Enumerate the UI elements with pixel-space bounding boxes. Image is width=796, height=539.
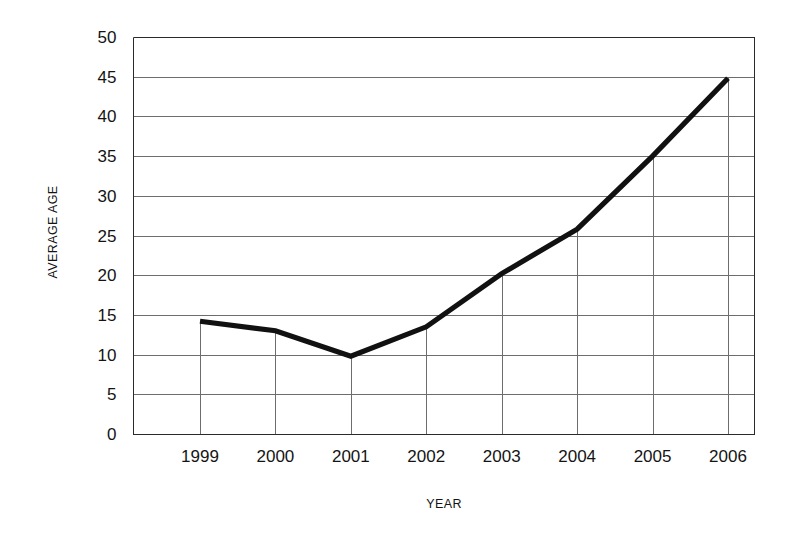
y-tick-label-0: 0 bbox=[107, 425, 116, 444]
x-tick-label-2001: 2001 bbox=[332, 447, 370, 466]
y-tick-label-30: 30 bbox=[98, 187, 117, 206]
x-tick-label-1999: 1999 bbox=[181, 447, 219, 466]
chart-container: 05101520253035404550 1999200020012002200… bbox=[0, 0, 796, 539]
y-tick-label-15: 15 bbox=[98, 306, 117, 325]
x-tick-label-2004: 2004 bbox=[558, 447, 596, 466]
x-axis-title: YEAR bbox=[426, 497, 462, 511]
y-tick-label-40: 40 bbox=[98, 107, 117, 126]
y-tick-label-10: 10 bbox=[98, 346, 117, 365]
y-tick-label-35: 35 bbox=[98, 147, 117, 166]
plot-background bbox=[0, 0, 796, 539]
y-tick-label-25: 25 bbox=[98, 227, 117, 246]
x-tick-label-2000: 2000 bbox=[257, 447, 295, 466]
y-tick-label-45: 45 bbox=[98, 68, 117, 87]
y-axis-title: AVERAGE AGE bbox=[46, 185, 60, 278]
x-tick-label-2005: 2005 bbox=[634, 447, 672, 466]
y-tick-label-50: 50 bbox=[98, 28, 117, 47]
y-tick-label-5: 5 bbox=[107, 385, 116, 404]
y-tick-label-20: 20 bbox=[98, 266, 117, 285]
x-tick-label-2003: 2003 bbox=[483, 447, 521, 466]
x-tick-label-2002: 2002 bbox=[407, 447, 445, 466]
line-chart: 05101520253035404550 1999200020012002200… bbox=[0, 0, 796, 539]
x-tick-label-2006: 2006 bbox=[709, 447, 747, 466]
